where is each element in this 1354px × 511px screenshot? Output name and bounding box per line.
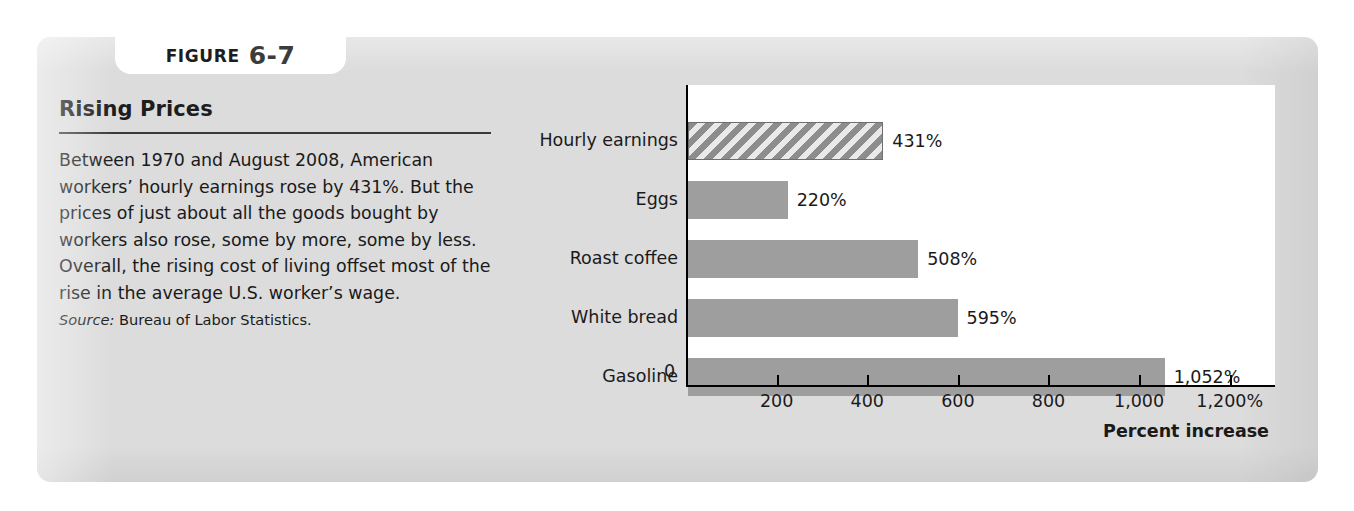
bar-value-label: 431%: [883, 131, 942, 151]
bar-value-label: 508%: [918, 249, 977, 269]
figure-body-text: Between 1970 and August 2008, American w…: [59, 147, 491, 306]
category-label-roast-coffee: Roast coffee: [570, 250, 678, 268]
figure-word-label: FIGURE: [166, 48, 240, 65]
figure-number-tab: FIGURE 6-7: [115, 37, 346, 74]
figure-number-label: 6-7: [249, 43, 296, 68]
figure-card: FIGURE 6-7 Rising Prices Between 1970 an…: [37, 37, 1318, 482]
chart-category-labels: Hourly earningsEggsRoast coffeeWhite bre…: [496, 85, 678, 385]
bar-value-label: 220%: [788, 190, 847, 210]
chart-plot-area: 431%220%508%595%1,052%: [686, 85, 1275, 385]
x-tick-600: [958, 375, 960, 385]
title-divider: [59, 132, 491, 134]
x-tick-label-600: 600: [941, 391, 974, 411]
bar-fill: [688, 299, 958, 337]
x-tick-200: [777, 375, 779, 385]
bar-hourly-earnings: 431%: [688, 122, 883, 160]
figure-title: Rising Prices: [59, 97, 496, 121]
bar-fill: [688, 240, 918, 278]
x-tick-label-200: 200: [760, 391, 793, 411]
category-label-eggs: Eggs: [636, 191, 678, 209]
x-axis-line: [686, 385, 1275, 387]
x-tick-label-zero: 0: [664, 361, 675, 381]
bar-eggs: 220%: [688, 181, 788, 219]
bar-fill: [688, 122, 883, 160]
bar-white-bread: 595%: [688, 299, 958, 337]
category-label-hourly-earnings: Hourly earnings: [539, 132, 678, 150]
x-tick-label-400: 400: [851, 391, 884, 411]
x-tick-label-1000: 1,000: [1114, 391, 1164, 411]
x-tick-400: [867, 375, 869, 385]
source-label: Source:: [59, 311, 114, 328]
x-tick-800: [1048, 375, 1050, 385]
x-tick-label-1200: 1,200%: [1196, 391, 1263, 411]
x-tick-1000: [1139, 375, 1141, 385]
x-axis-title: Percent increase: [686, 421, 1269, 441]
figure-text-column: Rising Prices Between 1970 and August 20…: [59, 97, 496, 330]
x-tick-1200: [1230, 375, 1232, 385]
bar-roast-coffee: 508%: [688, 240, 918, 278]
x-tick-label-800: 800: [1032, 391, 1065, 411]
category-label-white-bread: White bread: [571, 309, 678, 327]
bar-value-label: 595%: [958, 308, 1017, 328]
source-text: Bureau of Labor Statistics.: [114, 311, 311, 328]
figure-source-line: Source: Bureau of Labor Statistics.: [59, 310, 496, 330]
bar-fill: [688, 181, 788, 219]
x-axis-group: 0 Percent increase 2004006008001,0001,20…: [686, 385, 1326, 475]
